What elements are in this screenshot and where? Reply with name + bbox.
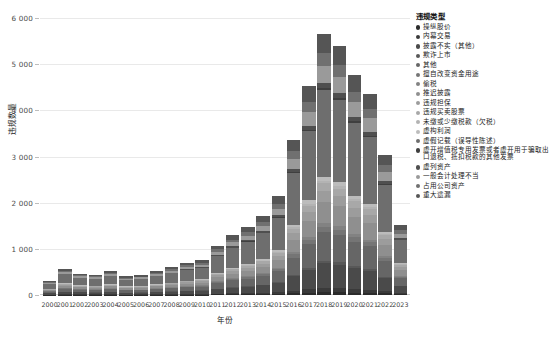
bar-segment[interactable] [363, 271, 376, 290]
bar-segment[interactable] [378, 155, 391, 166]
bar-column[interactable]: 2021 [363, 18, 376, 295]
bar-column[interactable]: 2019 [333, 18, 346, 295]
bar-segment[interactable] [333, 77, 346, 93]
bar-column[interactable]: 2008 [165, 18, 178, 295]
bar-segment[interactable] [272, 271, 285, 282]
legend-item[interactable]: 欺诈上市 [415, 52, 555, 59]
bar-segment[interactable] [317, 34, 330, 54]
bar-segment[interactable] [333, 235, 346, 263]
bar-column[interactable]: 2013 [241, 18, 254, 295]
bar-segment[interactable] [363, 94, 376, 109]
legend-item[interactable]: 虚构利润 [415, 128, 555, 135]
bar-segment[interactable] [394, 286, 407, 293]
bar-segment[interactable] [348, 268, 361, 289]
bar-segment[interactable] [363, 118, 376, 131]
bar-segment[interactable] [287, 159, 300, 169]
legend-item[interactable]: 虚开增值税专用发票或者虚开用于骗取出口退税、抵扣税款的其他发票 [415, 147, 555, 162]
bar-segment[interactable] [211, 256, 224, 272]
bar-segment[interactable] [363, 215, 376, 223]
bar-segment[interactable] [333, 65, 346, 77]
bar-segment[interactable] [89, 279, 102, 286]
bar-column[interactable]: 2003 [89, 18, 102, 295]
bar-column[interactable]: 2012 [226, 18, 239, 295]
legend-item[interactable]: 重大遗漏 [415, 192, 555, 199]
bar-segment[interactable] [363, 246, 376, 268]
bar-segment[interactable] [256, 285, 269, 292]
bar-segment[interactable] [287, 240, 300, 253]
bar-segment[interactable] [394, 278, 407, 286]
bar-segment[interactable] [287, 293, 300, 295]
bar-segment[interactable] [317, 191, 330, 202]
bar-segment[interactable] [256, 233, 269, 259]
bar-column[interactable]: 2009 [180, 18, 193, 295]
bar-segment[interactable] [302, 112, 315, 126]
bar-column[interactable]: 2023 [394, 18, 407, 295]
bar-segment[interactable] [378, 261, 391, 277]
bar-segment[interactable] [348, 201, 361, 208]
bar-segment[interactable] [226, 294, 239, 295]
bar-segment[interactable] [333, 292, 346, 295]
bar-segment[interactable] [317, 292, 330, 295]
bar-column[interactable]: 2015 [272, 18, 285, 295]
bar-column[interactable]: 2002 [73, 18, 86, 295]
bar-segment[interactable] [333, 100, 346, 183]
legend-item[interactable]: 偷税 [415, 81, 555, 88]
bar-segment[interactable] [363, 137, 376, 204]
legend-item[interactable]: 其他 [415, 62, 555, 69]
bar-column[interactable]: 2000 [43, 18, 56, 295]
bar-segment[interactable] [333, 189, 346, 197]
bar-segment[interactable] [195, 268, 208, 280]
legend-item[interactable]: 未缴或少缴税款（欠税） [415, 119, 555, 126]
bar-segment[interactable] [348, 217, 361, 235]
bar-column[interactable]: 2020 [348, 18, 361, 295]
bar-segment[interactable] [302, 293, 315, 295]
legend-item[interactable]: 内幕交易 [415, 33, 555, 40]
bar-segment[interactable] [302, 212, 315, 220]
bar-column[interactable]: 2016 [287, 18, 300, 295]
bar-column[interactable]: 2004 [104, 18, 117, 295]
bar-column[interactable]: 2007 [150, 18, 163, 295]
bar-column[interactable]: 2011 [211, 18, 224, 295]
bar-segment[interactable] [287, 258, 300, 275]
bar-segment[interactable] [348, 123, 361, 196]
bar-segment[interactable] [287, 173, 300, 225]
bar-segment[interactable] [378, 293, 391, 295]
bar-column[interactable]: 2005 [119, 18, 132, 295]
legend-item[interactable]: 违规买卖股票 [415, 109, 555, 116]
bar-column[interactable]: 2022 [378, 18, 391, 295]
legend-item[interactable]: 占用公司资产 [415, 183, 555, 190]
bar-segment[interactable] [165, 273, 178, 282]
bar-segment[interactable] [317, 183, 330, 191]
bar-segment[interactable] [363, 223, 376, 239]
bar-segment[interactable] [226, 280, 239, 287]
legend-item[interactable]: 推迟披露 [415, 90, 555, 97]
bar-column[interactable]: 2018 [317, 18, 330, 295]
bar-segment[interactable] [287, 276, 300, 291]
bar-segment[interactable] [348, 75, 361, 92]
legend-item[interactable]: 擅自改变资金用途 [415, 71, 555, 78]
bar-segment[interactable] [104, 276, 117, 284]
bar-segment[interactable] [394, 294, 407, 295]
bar-segment[interactable] [241, 279, 254, 287]
bar-column[interactable]: 2006 [134, 18, 147, 295]
bar-segment[interactable] [317, 53, 330, 65]
bar-segment[interactable] [211, 294, 224, 295]
bar-segment[interactable] [58, 274, 71, 283]
bar-segment[interactable] [287, 151, 300, 158]
bar-segment[interactable] [348, 102, 361, 116]
bar-segment[interactable] [317, 202, 330, 223]
bar-segment[interactable] [317, 232, 330, 261]
bar-segment[interactable] [348, 293, 361, 295]
bar-segment[interactable] [302, 270, 315, 290]
bar-segment[interactable] [226, 248, 239, 268]
bar-segment[interactable] [378, 165, 391, 172]
bar-segment[interactable] [363, 109, 376, 119]
bar-segment[interactable] [348, 208, 361, 217]
bar-segment[interactable] [272, 196, 285, 203]
bar-segment[interactable] [302, 102, 315, 112]
bar-segment[interactable] [317, 66, 330, 83]
bar-segment[interactable] [333, 265, 346, 289]
bar-segment[interactable] [272, 260, 285, 268]
bar-segment[interactable] [363, 293, 376, 295]
legend-item[interactable]: 披露不实（其他） [415, 43, 555, 50]
